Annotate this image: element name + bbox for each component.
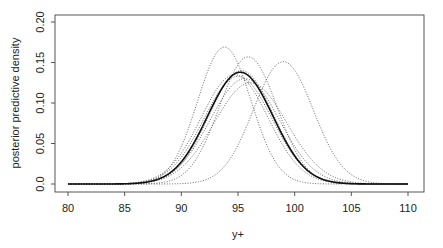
x-tick-label: 90	[175, 202, 187, 214]
y-tick-label: 0.15	[34, 52, 46, 73]
y-axis-title: posterior predictive density	[9, 37, 21, 168]
x-tick-label: 95	[232, 202, 244, 214]
y-tick-label: 0.20	[34, 11, 46, 32]
y-tick-label: 0.0	[34, 176, 46, 191]
density-chart: 80859095100105110 0.00.050.100.150.20 y+…	[0, 0, 443, 248]
y-tick-label: 0.05	[34, 133, 46, 154]
x-tick-label: 80	[62, 202, 74, 214]
y-tick-label: 0.10	[34, 92, 46, 113]
x-tick-label: 100	[285, 202, 303, 214]
x-axis-title: y+	[232, 228, 244, 240]
x-tick-label: 85	[119, 202, 131, 214]
x-tick-label: 110	[399, 202, 417, 214]
x-tick-label: 105	[342, 202, 360, 214]
